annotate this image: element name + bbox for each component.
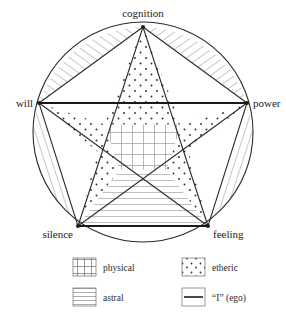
legend-swatch-astral [73, 288, 96, 306]
vertex-label-power: power [253, 97, 281, 109]
vertex-label-will: will [16, 97, 33, 109]
legend: physical etheric astral “I” (ego) [73, 258, 246, 306]
vertex-label-silence: silence [42, 228, 73, 240]
figure-root: cognition power feeling silence will phy… [0, 0, 286, 322]
vertex-dot-will [37, 101, 41, 105]
legend-label-astral: astral [103, 293, 124, 303]
legend-swatch-etheric [182, 258, 205, 276]
legend-swatch-physical [73, 258, 96, 276]
vertex-dot-cognition [141, 25, 145, 29]
vertex-dot-power [245, 101, 249, 105]
legend-label-ego: “I” (ego) [212, 293, 246, 304]
legend-item-etheric: etheric [182, 258, 238, 276]
vertex-label-cognition: cognition [122, 7, 164, 19]
pentagram-diagram: cognition power feeling silence will phy… [0, 0, 286, 322]
vertex-dot-silence [76, 224, 80, 228]
legend-label-etheric: etheric [212, 263, 238, 273]
legend-label-physical: physical [103, 263, 135, 273]
vertex-dot-feeling [206, 224, 210, 228]
vertex-label-feeling: feeling [213, 228, 244, 240]
legend-item-ego: “I” (ego) [182, 288, 246, 306]
legend-item-astral: astral [73, 288, 124, 306]
legend-item-physical: physical [73, 258, 135, 276]
